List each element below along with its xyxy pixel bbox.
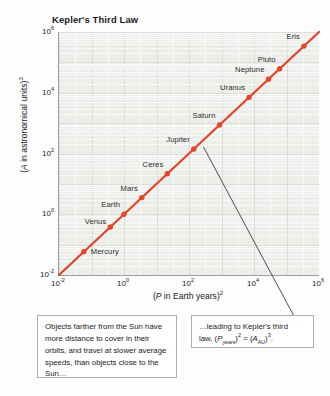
- y-tick-mantissa: 10: [42, 88, 51, 97]
- data-series-layer: [59, 32, 319, 275]
- y-tick-mantissa: 10: [42, 149, 51, 158]
- y-tick-exponent: 2: [51, 147, 54, 153]
- y-tick-mantissa: 10: [40, 270, 49, 279]
- x-tick-exponent: 2: [191, 277, 194, 283]
- x-axis-label-exponent: 2: [220, 290, 223, 296]
- y-axis-ticks: 106 104 102 100 10-2: [22, 32, 54, 275]
- y-tick-mantissa: 10: [42, 27, 51, 36]
- x-tick: 100: [117, 279, 129, 288]
- plot-area: MercuryVenusEarthMarsCeresJupiterSaturnU…: [58, 32, 319, 276]
- data-point-label: Mars: [121, 184, 138, 193]
- y-tick: 106: [42, 27, 54, 36]
- data-point-label: Jupiter: [166, 135, 190, 144]
- data-point-label: Mercury: [91, 247, 119, 256]
- data-point: [81, 249, 86, 254]
- data-point-label: Ceres: [143, 160, 164, 169]
- y-tick: 10-2: [40, 270, 54, 279]
- y-tick-mantissa: 10: [42, 209, 51, 218]
- x-tick: 104: [247, 279, 259, 288]
- data-point: [165, 171, 170, 176]
- y-tick-exponent: 4: [51, 86, 54, 92]
- formula-equals: = (: [241, 334, 252, 343]
- data-point-label: Neptune: [235, 65, 264, 74]
- y-tick: 102: [42, 149, 54, 158]
- x-tick-mantissa: 10: [312, 279, 321, 288]
- y-tick-exponent: -2: [49, 268, 54, 274]
- formula-lead: law, (: [199, 334, 217, 343]
- x-tick-mantissa: 10: [117, 279, 126, 288]
- data-point: [301, 43, 306, 48]
- data-point-label: Pluto: [258, 55, 276, 64]
- data-point-label: Eris: [286, 32, 299, 41]
- page-title: Kepler's Third Law: [52, 14, 138, 25]
- x-tick-exponent: 6: [321, 277, 324, 283]
- data-point: [277, 66, 282, 71]
- data-point: [121, 212, 126, 217]
- formula-p-subscript: years: [222, 338, 235, 344]
- callout-left-text: Objects farther from the Sun have more d…: [45, 322, 166, 378]
- x-tick-exponent: 4: [256, 277, 259, 283]
- data-point: [217, 122, 222, 127]
- callout-right-formula: law, (Pyears)2 = (AAU)3.: [199, 333, 307, 345]
- x-tick: 106: [312, 279, 324, 288]
- data-point-label: Venus: [85, 217, 107, 226]
- data-point: [191, 146, 196, 151]
- data-point: [266, 77, 271, 82]
- formula-a-subscript: AU: [258, 338, 265, 344]
- formula-period: .: [271, 334, 273, 343]
- y-tick-exponent: 6: [51, 25, 54, 31]
- y-tick: 100: [42, 209, 54, 218]
- x-tick-mantissa: 10: [182, 279, 191, 288]
- x-axis-label-rest: in Earth years): [161, 291, 219, 301]
- callout-left: Objects farther from the Sun have more d…: [37, 315, 177, 378]
- data-point-label: Uranus: [220, 83, 245, 92]
- kepler-third-law-figure: Kepler's Third Law (A in astronomical un…: [0, 0, 330, 396]
- x-tick-exponent: -2: [60, 277, 65, 283]
- y-tick: 104: [42, 88, 54, 97]
- data-point-label: Saturn: [193, 111, 216, 120]
- x-tick: 10-2: [51, 279, 65, 288]
- callout-right-line1: …leading to Kepler's third: [199, 321, 307, 333]
- x-tick: 102: [182, 279, 194, 288]
- data-point: [139, 195, 144, 200]
- y-tick-exponent: 0: [51, 208, 54, 214]
- callout-right: …leading to Kepler's third law, (Pyears)…: [191, 315, 314, 348]
- x-tick-mantissa: 10: [247, 279, 256, 288]
- x-tick-exponent: 0: [126, 277, 129, 283]
- data-point: [246, 95, 251, 100]
- x-axis-label: (P in Earth years)2: [58, 291, 318, 301]
- x-tick-mantissa: 10: [51, 279, 60, 288]
- data-point: [108, 224, 113, 229]
- data-point-label: Earth: [101, 200, 120, 209]
